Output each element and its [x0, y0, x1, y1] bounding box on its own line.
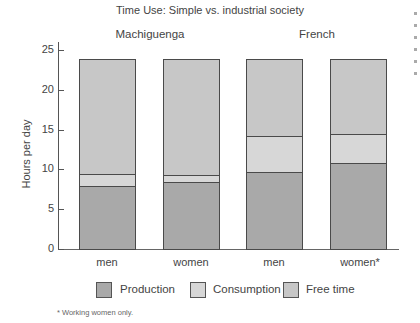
- clipped-margin-text: [414, 48, 417, 51]
- bar-segment-consumption: [164, 176, 219, 183]
- chart-title: Time Use: Simple vs. industrial society: [0, 4, 420, 16]
- footnote: * Working women only.: [57, 308, 133, 317]
- clipped-margin-text: [414, 12, 417, 15]
- bar-segment-consumption: [80, 175, 135, 187]
- legend-swatch-production: [96, 282, 112, 298]
- clipped-margin-text: [414, 36, 417, 39]
- bar-segment-free-time: [164, 60, 219, 176]
- y-tick: [58, 209, 64, 210]
- y-tick-label: 25: [34, 43, 54, 55]
- bar-segment-consumption: [247, 137, 302, 173]
- group-label-machiguenga: Machiguenga: [80, 28, 220, 40]
- y-axis-label: Hours per day: [20, 114, 32, 194]
- y-tick: [58, 169, 64, 170]
- bar-segment-free-time: [80, 60, 135, 176]
- legend-label-production: Production: [120, 283, 175, 295]
- y-tick-label: 5: [34, 202, 54, 214]
- stacked-bar: [246, 59, 303, 250]
- y-tick: [58, 50, 64, 51]
- legend-swatch-free-time: [283, 282, 299, 298]
- y-tick: [58, 90, 64, 91]
- bar-segment-production: [80, 187, 135, 249]
- bar-segment-consumption: [331, 135, 386, 164]
- category-label: women: [156, 256, 226, 268]
- y-tick-label: 0: [34, 242, 54, 254]
- category-label: women*: [325, 256, 395, 268]
- stacked-bar: [163, 59, 220, 250]
- clipped-margin-text: [414, 24, 417, 27]
- bar-segment-free-time: [331, 60, 386, 135]
- bar-segment-production: [247, 173, 302, 249]
- legend-label-consumption: Consumption: [213, 283, 281, 295]
- y-tick-label: 15: [34, 123, 54, 135]
- group-label-french: French: [247, 28, 387, 40]
- bar-segment-free-time: [247, 60, 302, 138]
- stacked-bar: [79, 59, 136, 250]
- clipped-margin-text: [414, 72, 417, 75]
- y-tick-label: 20: [34, 83, 54, 95]
- clipped-margin-text: [414, 60, 417, 63]
- legend-label-free-time: Free time: [306, 283, 355, 295]
- legend-swatch-consumption: [190, 282, 206, 298]
- bar-segment-production: [164, 183, 219, 249]
- category-label: men: [72, 256, 142, 268]
- category-label: men: [239, 256, 309, 268]
- y-tick: [58, 249, 64, 250]
- y-tick: [58, 130, 64, 131]
- bar-segment-production: [331, 164, 386, 249]
- y-axis: [58, 42, 59, 250]
- y-tick-label: 10: [34, 162, 54, 174]
- stacked-bar: [330, 59, 387, 250]
